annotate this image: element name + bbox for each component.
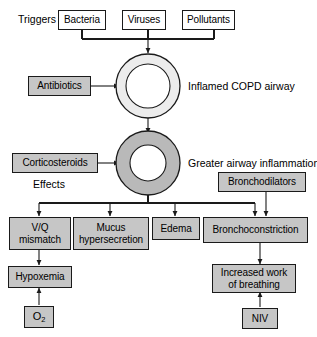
triggers-label: Triggers: [18, 13, 56, 25]
trigger-box-pollutants[interactable]: Pollutants: [182, 10, 235, 30]
effect-label-mucus-line2: hypersecretion: [79, 234, 143, 245]
treatment-box-corticosteroids[interactable]: Corticosteroids: [12, 153, 98, 173]
effect-label-mucus-line1: Mucus: [97, 222, 126, 233]
treatment-box-bronchodilators[interactable]: Bronchodilators: [218, 172, 306, 192]
treatment-box-antibiotics[interactable]: Antibiotics: [28, 76, 91, 96]
outcome-label-iwob-line1: Increased work: [221, 267, 287, 278]
treatment-label-bronchodilators: Bronchodilators: [228, 176, 296, 187]
effect-box-bronchoconstriction[interactable]: Bronchoconstriction: [203, 217, 308, 243]
airway-inflamed-caption: Inflamed COPD airway: [188, 80, 295, 92]
effect-label-vq-mismatch-line1: V/Q: [32, 222, 49, 233]
effect-box-edema[interactable]: Edema: [152, 217, 200, 240]
trigger-box-bacteria[interactable]: Bacteria: [58, 10, 106, 30]
treatment-label-oxygen: O2: [33, 310, 46, 324]
treatment-label-antibiotics: Antibiotics: [37, 80, 81, 91]
effect-box-vq-mismatch[interactable]: V/Q mismatch: [9, 217, 71, 250]
outcome-box-increased-work-of-breathing[interactable]: Increased work of breathing: [212, 264, 296, 293]
outcome-box-hypoxemia[interactable]: Hypoxemia: [8, 266, 72, 288]
effect-label-edema: Edema: [160, 223, 191, 234]
airway-greater-ring: [116, 131, 180, 195]
treatment-label-niv: NIV: [252, 313, 268, 324]
treatment-label-oxygen-text: O: [33, 310, 41, 322]
outcome-label-iwob-line2: of breathing: [228, 279, 280, 290]
effect-label-bronchoconstriction: Bronchoconstriction: [213, 224, 299, 235]
copd-exacerbation-diagram: Triggers Bacteria Viruses Pollutants Ant…: [0, 0, 317, 337]
trigger-label-bacteria: Bacteria: [64, 14, 100, 25]
treatment-label-corticosteroids: Corticosteroids: [22, 157, 87, 168]
outcome-label-hypoxemia: Hypoxemia: [15, 271, 64, 282]
effect-box-mucus-hypersecretion[interactable]: Mucus hypersecretion: [73, 217, 149, 250]
trigger-label-viruses: Viruses: [128, 14, 160, 25]
treatment-box-niv[interactable]: NIV: [242, 308, 278, 329]
treatment-box-oxygen[interactable]: O2: [24, 306, 54, 328]
airway-greater-caption: Greater airway inflammation: [188, 157, 317, 169]
trigger-box-viruses[interactable]: Viruses: [122, 10, 166, 30]
effect-label-vq-mismatch-line2: mismatch: [19, 234, 61, 245]
trigger-label-pollutants: Pollutants: [187, 14, 230, 25]
airway-inflamed-ring: [116, 54, 180, 118]
treatment-label-oxygen-subscript: 2: [41, 315, 45, 324]
effects-label: Effects: [33, 178, 65, 190]
